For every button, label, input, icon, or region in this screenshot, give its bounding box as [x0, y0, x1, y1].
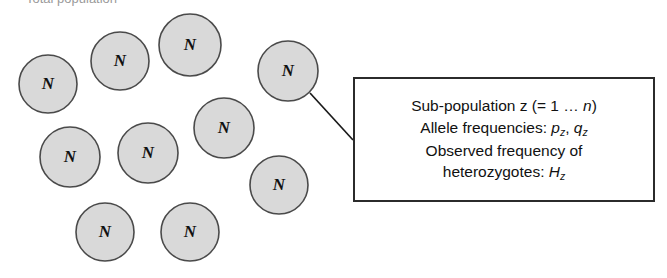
population-structure-diagram: Total population NNNNNNNNNN Sub-populati…: [0, 0, 667, 278]
heterozygosity-symbol: H: [549, 163, 560, 180]
callout-line-1-ellipsis: …: [563, 97, 583, 114]
sub-population-label: N: [41, 74, 55, 93]
sub-population-label: N: [281, 61, 295, 80]
callout-line-3: Observed frequency of: [426, 140, 583, 161]
allele-frequency-p: p: [551, 119, 560, 136]
callout-line-4-prefix: heterozygotes:: [443, 163, 549, 180]
sub-population-label: N: [217, 118, 231, 137]
sub-population-label: N: [141, 143, 155, 162]
allele-frequency-q-subscript: z: [582, 126, 587, 138]
callout-leader-line: [310, 93, 353, 140]
sub-population-label: N: [272, 175, 286, 194]
callout-line-4: heterozygotes: Hz: [443, 161, 565, 184]
callout-box: Sub-population z (= 1 … n) Allele freque…: [353, 77, 655, 202]
callout-line-2-separator: ,: [565, 119, 574, 136]
sub-population-label: N: [98, 222, 112, 241]
callout-line-2-prefix: Allele frequencies:: [420, 119, 551, 136]
sub-population-label: N: [113, 51, 127, 70]
sub-population-label: N: [183, 35, 197, 54]
callout-line-1: Sub-population z (= 1 … n): [411, 95, 597, 116]
callout-line-1-variable: n: [583, 97, 592, 114]
callout-line-2: Allele frequencies: pz, qz: [420, 117, 587, 140]
sub-population-circles: NNNNNNNNNN: [19, 14, 318, 261]
sub-population-label: N: [63, 147, 77, 166]
heterozygosity-subscript: z: [560, 170, 565, 182]
callout-line-1-suffix: ): [592, 97, 597, 114]
sub-population-label: N: [183, 222, 197, 241]
callout-line-1-prefix: Sub-population z (= 1: [411, 97, 563, 114]
